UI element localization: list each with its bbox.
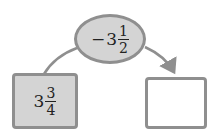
top-node-ellipse: − 3 1 2 — [74, 14, 146, 64]
left-connector — [44, 48, 77, 74]
fraction: 1 2 — [118, 24, 129, 55]
numerator: 3 — [46, 86, 55, 100]
denominator: 4 — [46, 103, 55, 117]
whole-part: 3 — [106, 29, 117, 49]
whole-part: 3 — [34, 91, 45, 111]
right-arrow — [145, 47, 174, 72]
minus-sign: − — [91, 29, 105, 49]
numerator: 1 — [119, 24, 128, 38]
top-mixed-number: − 3 1 2 — [91, 24, 129, 55]
left-mixed-number: 3 3 4 — [34, 86, 57, 117]
fraction: 3 4 — [45, 86, 56, 117]
left-node-box: 3 3 4 — [12, 73, 78, 129]
denominator: 2 — [119, 41, 128, 55]
answer-box[interactable] — [145, 77, 207, 129]
